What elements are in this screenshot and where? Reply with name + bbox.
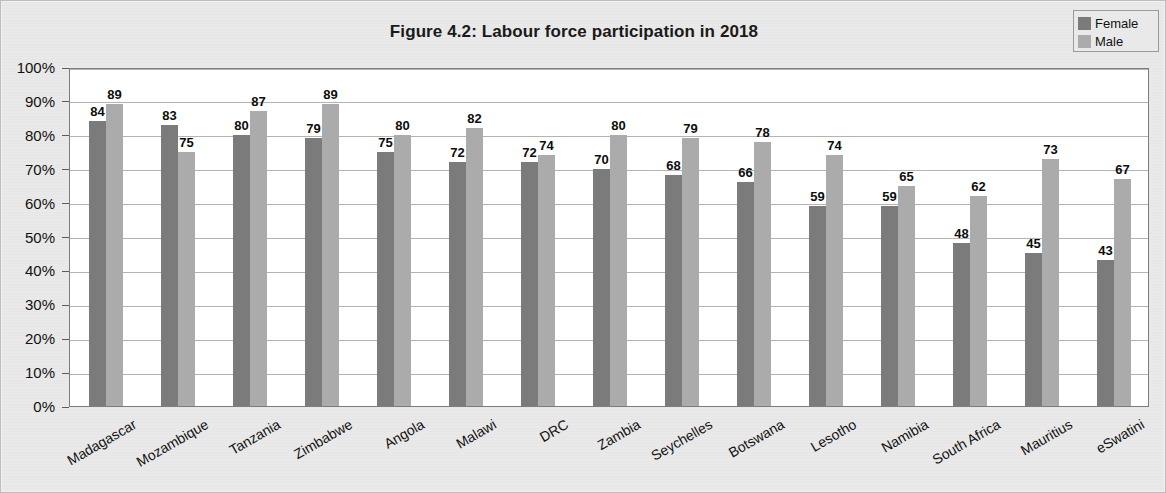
x-axis-category-label: Madagascar: [64, 416, 139, 468]
bar-value-label: 84: [90, 104, 104, 119]
y-axis-tick-mark: [62, 237, 69, 238]
chart-legend: Female Male: [1073, 10, 1159, 52]
bar-male[interactable]: [682, 138, 699, 406]
bar-male[interactable]: [466, 128, 483, 406]
bar-male[interactable]: [1042, 159, 1059, 406]
bar-value-label: 62: [971, 179, 985, 194]
y-axis-tick-label: 50%: [3, 229, 55, 246]
bar-value-label: 89: [323, 87, 337, 102]
bar-value-label: 79: [683, 121, 697, 136]
bar-value-label: 65: [899, 169, 913, 184]
bar-male[interactable]: [1114, 179, 1131, 406]
bar-value-label: 75: [179, 135, 193, 150]
y-axis-tick-label: 100%: [3, 59, 55, 76]
x-axis-category-label: Malawi: [453, 416, 499, 452]
y-axis-tick-mark: [62, 373, 69, 374]
legend-label-male: Male: [1095, 35, 1123, 48]
x-axis-category-label: Tanzania: [226, 416, 283, 458]
bar-male[interactable]: [538, 155, 555, 406]
bar-value-label: 43: [1098, 243, 1112, 258]
bar-group: 8489: [70, 69, 142, 406]
bar-female[interactable]: [593, 169, 610, 406]
bar-female[interactable]: [953, 243, 970, 406]
y-axis-tick-label: 70%: [3, 161, 55, 178]
x-axis-category-label: Seychelles: [648, 416, 715, 464]
bar-group: 7580: [358, 69, 430, 406]
y-axis-tick-label: 30%: [3, 296, 55, 313]
legend-swatch-male: [1078, 35, 1091, 48]
bar-female[interactable]: [809, 206, 826, 406]
bar-female[interactable]: [1097, 260, 1114, 406]
bar-male[interactable]: [898, 186, 915, 406]
bar-group: 7274: [502, 69, 574, 406]
bar-value-label: 80: [611, 118, 625, 133]
x-axis-category-label: Lesotho: [808, 416, 859, 455]
bar-value-label: 70: [594, 152, 608, 167]
bar-female[interactable]: [233, 135, 250, 406]
bar-female[interactable]: [881, 206, 898, 406]
y-axis-tick-mark: [62, 271, 69, 272]
bar-value-label: 89: [107, 87, 121, 102]
y-axis-tick-label: 80%: [3, 127, 55, 144]
y-axis-tick-mark: [62, 339, 69, 340]
y-axis-tick-mark: [62, 169, 69, 170]
bar-female[interactable]: [377, 152, 394, 406]
figure-container: Figure 4.2: Labour force participation i…: [0, 0, 1166, 493]
bar-group: 4573: [1006, 69, 1078, 406]
bar-value-label: 72: [450, 145, 464, 160]
bar-male[interactable]: [322, 104, 339, 406]
y-axis-tick-label: 40%: [3, 262, 55, 279]
y-axis-tick-mark: [62, 101, 69, 102]
y-axis-tick-mark: [62, 203, 69, 204]
y-axis-tick-label: 20%: [3, 330, 55, 347]
bar-male[interactable]: [970, 196, 987, 406]
bar-group: 5965: [862, 69, 934, 406]
bar-value-label: 45: [1026, 236, 1040, 251]
bar-value-label: 67: [1115, 162, 1129, 177]
bar-male[interactable]: [106, 104, 123, 406]
x-axis-category-label: Zambia: [595, 416, 643, 453]
bar-value-label: 74: [539, 138, 553, 153]
bar-male[interactable]: [826, 155, 843, 406]
bar-male[interactable]: [250, 111, 267, 406]
bar-male[interactable]: [754, 142, 771, 406]
bar-value-label: 48: [954, 226, 968, 241]
x-axis-category-label: Zimbabwe: [291, 416, 355, 462]
y-axis-tick-label: 60%: [3, 195, 55, 212]
bar-value-label: 80: [395, 118, 409, 133]
bar-group: 6678: [718, 69, 790, 406]
y-axis-tick-mark: [62, 68, 69, 69]
x-axis-category-label: Botswana: [726, 416, 787, 461]
bar-value-label: 72: [522, 145, 536, 160]
bar-female[interactable]: [1025, 253, 1042, 406]
y-axis-tick-label: 0%: [3, 398, 55, 415]
bar-group: 8375: [142, 69, 214, 406]
bar-male[interactable]: [394, 135, 411, 406]
y-axis-tick-mark: [62, 305, 69, 306]
bar-female[interactable]: [89, 121, 106, 406]
legend-swatch-female: [1078, 17, 1091, 30]
bar-female[interactable]: [521, 162, 538, 406]
legend-item-female: Female: [1078, 14, 1155, 32]
legend-label-female: Female: [1095, 17, 1138, 30]
bar-group: 7080: [574, 69, 646, 406]
bar-value-label: 83: [162, 108, 176, 123]
x-axis-category-label: South Africa: [930, 416, 1003, 468]
x-axis-category-label: Namibia: [879, 416, 931, 456]
bar-female[interactable]: [665, 175, 682, 406]
bar-female[interactable]: [449, 162, 466, 406]
bar-value-label: 59: [810, 189, 824, 204]
bar-group: 8087: [214, 69, 286, 406]
bar-value-label: 66: [738, 165, 752, 180]
bar-female[interactable]: [305, 138, 322, 406]
bar-group: 6879: [646, 69, 718, 406]
y-axis: 0%10%20%30%40%50%60%70%80%90%100%: [1, 68, 69, 407]
bar-value-label: 87: [251, 94, 265, 109]
bar-female[interactable]: [737, 182, 754, 406]
x-axis-category-label: Mozambique: [134, 416, 211, 470]
bar-male[interactable]: [178, 152, 195, 406]
bar-male[interactable]: [610, 135, 627, 406]
x-axis-labels: MadagascarMozambiqueTanzaniaZimbabweAngo…: [69, 410, 1149, 490]
y-axis-tick-mark: [62, 135, 69, 136]
bar-female[interactable]: [161, 125, 178, 406]
